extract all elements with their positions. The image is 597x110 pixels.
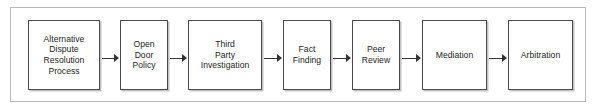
process-node-label: Open Door Policy	[129, 39, 158, 71]
arrow-shaft	[402, 58, 416, 59]
arrow-fact-to-peer-icon	[333, 54, 351, 62]
arrow-peer-to-mediation-icon	[402, 54, 421, 62]
arrow-adr-to-open-door-icon	[102, 54, 119, 62]
process-node-arbitration[interactable]: Arbitration	[508, 20, 573, 90]
arrow-shaft	[489, 58, 502, 59]
process-node-peer-review[interactable]: Peer Review	[352, 20, 400, 90]
arrow-open-door-to-third-party-icon	[170, 54, 187, 62]
arrow-head	[416, 54, 421, 62]
process-node-label: Arbitration	[518, 50, 563, 61]
process-flow-row: Alternative Dispute Resolution ProcessOp…	[0, 0, 597, 110]
arrow-head	[182, 54, 187, 62]
arrow-shaft	[170, 58, 182, 59]
arrow-head	[346, 54, 351, 62]
arrow-shaft	[102, 58, 114, 59]
process-node-adr-process[interactable]: Alternative Dispute Resolution Process	[28, 20, 100, 90]
process-node-fact-finding[interactable]: Fact Finding	[283, 20, 331, 90]
process-node-third-party-investigation[interactable]: Third Party Investigation	[188, 20, 262, 90]
arrow-shaft	[264, 58, 277, 59]
arrow-mediation-to-arbitration-icon	[489, 54, 507, 62]
arrow-head	[502, 54, 507, 62]
arrow-third-party-to-fact-icon	[264, 54, 282, 62]
arrow-head	[114, 54, 119, 62]
process-node-mediation[interactable]: Mediation	[422, 20, 487, 90]
flowchart-diagram: Alternative Dispute Resolution ProcessOp…	[0, 0, 597, 110]
process-node-label: Third Party Investigation	[198, 39, 253, 71]
process-node-open-door-policy[interactable]: Open Door Policy	[120, 20, 168, 90]
process-node-label: Mediation	[433, 50, 476, 61]
process-node-label: Alternative Dispute Resolution Process	[41, 34, 88, 76]
arrow-shaft	[333, 58, 346, 59]
process-node-label: Peer Review	[359, 44, 393, 65]
arrow-head	[277, 54, 282, 62]
process-node-label: Fact Finding	[290, 44, 324, 65]
